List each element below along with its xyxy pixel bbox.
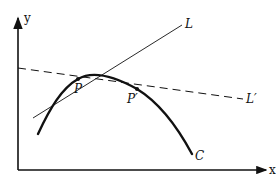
point-p-label: P <box>73 82 83 96</box>
curve <box>38 75 192 154</box>
y-axis-label: y <box>23 11 31 25</box>
secant-line-label: L′ <box>245 92 257 106</box>
x-axis-label: x <box>269 163 276 177</box>
point-p-prime-label: P′ <box>126 92 138 106</box>
point-p-prime <box>135 87 139 91</box>
tangent-line <box>33 25 182 118</box>
tangent-line-label: L <box>184 17 193 31</box>
curve-label: C <box>195 149 204 163</box>
point-p <box>76 77 80 81</box>
diagram-canvas: y x L′ L C P P′ <box>0 0 276 187</box>
